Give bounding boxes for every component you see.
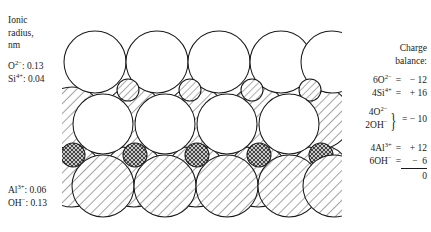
charge-result: = − 10 [402, 113, 427, 125]
charge-term: 6OH− [352, 155, 392, 168]
charge-balance-group-1: 6O2− = − 12 4Si4+ = + 16 [352, 74, 427, 100]
ion-symbol: Si [8, 74, 16, 84]
crystal-structure-diagram [62, 24, 342, 228]
ion-charge: − [22, 195, 26, 202]
ion-radius: 0.13 [27, 61, 44, 71]
ionic-radius-lower-values: Al3+: 0.06 OH−: 0.13 [8, 184, 47, 209]
ion-radius: 0.04 [28, 74, 45, 84]
charge-equals: = [392, 155, 401, 168]
charge-value: − 6 [401, 155, 427, 169]
bottom-row-front-spheres [72, 155, 342, 217]
charge-balance-title-line-1: Charge [395, 42, 427, 55]
charge-value: + 16 [401, 87, 427, 100]
charge-equals: = [392, 87, 401, 100]
charge-value: − 12 [401, 74, 427, 87]
ion-value-hydroxyl: OH−: 0.13 [8, 197, 47, 210]
closing-brace-icon: } [391, 113, 397, 126]
ion-charge: 4+ [16, 71, 23, 78]
ionic-radius-heading: Ionic radius, nm [8, 14, 34, 52]
charge-term: 2OH− [365, 119, 387, 132]
ion-symbol: OH [8, 198, 22, 208]
heading-line-2: radius, [8, 27, 34, 40]
heading-line-3: nm [8, 39, 34, 52]
charge-balance-row: 6OH− = − 6 [352, 155, 427, 169]
ion-symbol: O [8, 61, 15, 71]
charge-balance-title: Charge balance: [395, 42, 427, 67]
ion-radius: 0.13 [30, 198, 47, 208]
heading-line-1: Ionic [8, 14, 34, 27]
charge-balance-row: 4Si4+ = + 16 [352, 87, 427, 100]
ion-symbol: Al [8, 185, 18, 195]
ion-radius: 0.06 [30, 185, 47, 195]
charge-term-stack: 4O2− 2OH− [365, 106, 387, 132]
charge-equals: = [392, 74, 401, 87]
charge-term: 4Si4+ [352, 87, 392, 100]
charge-balance-group-2: 4O2− 2OH− } = − 10 [365, 106, 427, 132]
charge-term: 4Al3+ [352, 142, 392, 155]
ion-value-silicon: Si4+: 0.04 [8, 73, 45, 86]
charge-balance-total: 0 [367, 170, 427, 182]
charge-equals: = [392, 142, 401, 155]
ionic-radius-upper-values: O2−: 0.13 Si4+: 0.04 [8, 60, 45, 85]
ion-value-aluminum: Al3+: 0.06 [8, 184, 47, 197]
charge-balance-title-line-2: balance: [395, 55, 427, 68]
charge-balance-group-3: 4Al3+ = + 12 6OH− = − 6 [352, 142, 427, 169]
top-row-oxygen-spheres [64, 31, 342, 93]
ion-charge: 2− [15, 59, 22, 66]
charge-value: + 12 [401, 142, 427, 155]
ion-value-oxygen: O2−: 0.13 [8, 60, 45, 73]
ion-charge: 3+ [18, 183, 25, 190]
